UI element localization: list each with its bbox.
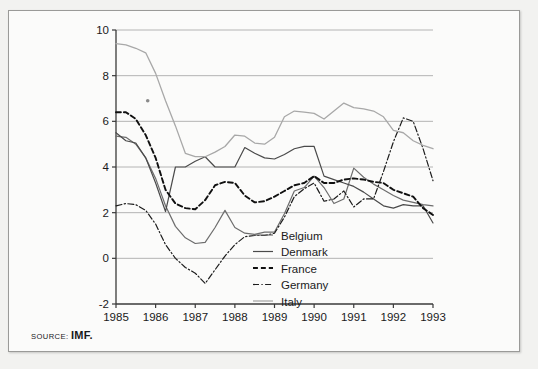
- series-line-denmark: [116, 133, 433, 223]
- x-tick-label: 1993: [420, 311, 446, 323]
- x-tick-label: 1985: [103, 311, 129, 323]
- chart-legend: BelgiumDenmarkFranceGermanyItaly: [253, 230, 329, 308]
- y-tick-label: 10: [96, 24, 109, 36]
- legend-label-belgium: Belgium: [281, 230, 323, 242]
- series-line-belgium: [116, 136, 433, 243]
- source-value: IMF.: [71, 329, 93, 341]
- gridlines: [116, 30, 433, 258]
- legend-label-france: France: [281, 263, 317, 275]
- legend-label-italy: Italy: [281, 296, 302, 308]
- x-tick-label: 1989: [262, 311, 288, 323]
- legend-label-germany: Germany: [281, 279, 329, 291]
- x-tick-label: 1992: [381, 311, 407, 323]
- y-tick-label: 0: [103, 252, 109, 264]
- x-tick-label: 1987: [182, 311, 208, 323]
- series-line-italy: [116, 44, 433, 157]
- stray-mark: [146, 99, 150, 103]
- y-tick-label: 2: [103, 207, 109, 219]
- x-tick-labels: 198519861987198819891990199119921993: [103, 311, 446, 323]
- source-note: SOURCE: IMF.: [31, 329, 93, 341]
- legend-label-denmark: Denmark: [281, 246, 328, 258]
- y-tick-label: 4: [103, 161, 110, 173]
- y-tick-label: 8: [103, 70, 109, 82]
- x-tick-label: 1988: [222, 311, 248, 323]
- figure-panel: -20246810 198519861987198819891990199119…: [8, 10, 520, 352]
- x-tick-label: 1990: [301, 311, 327, 323]
- source-keyword: SOURCE:: [31, 332, 68, 341]
- line-chart: -20246810 198519861987198819891990199119…: [9, 11, 521, 353]
- x-tick-label: 1986: [143, 311, 169, 323]
- chart-annotations: [146, 99, 150, 103]
- chart-canvas: -20246810 198519861987198819891990199119…: [9, 11, 521, 353]
- y-tick-label: 6: [103, 115, 109, 127]
- y-tick-label: -2: [99, 298, 109, 310]
- y-tick-labels: -20246810: [96, 24, 109, 310]
- series-lines: [116, 44, 433, 284]
- x-tick-label: 1991: [341, 311, 367, 323]
